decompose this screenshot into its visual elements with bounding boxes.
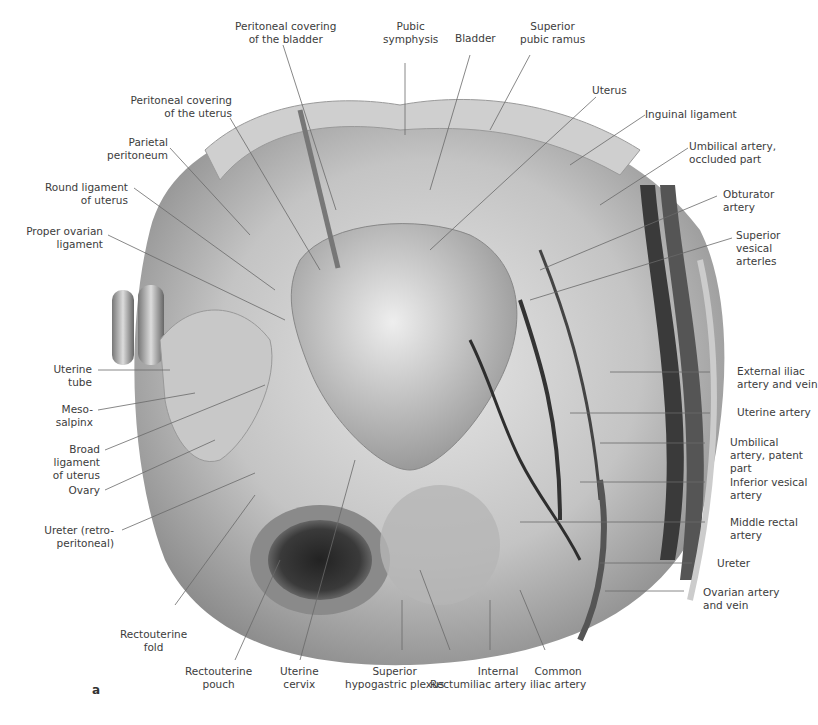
vessel-left-1 <box>112 290 134 365</box>
label-inferior-vesical-artery: Inferior vesical artery <box>730 476 807 502</box>
label-ureter: Ureter <box>717 557 750 570</box>
label-ureter-retroperitoneal: Ureter (retro- peritoneal) <box>44 524 114 550</box>
label-obturator-artery: Obturator artery <box>723 188 774 214</box>
label-parietal-peritoneum: Parietal peritoneum <box>107 136 168 162</box>
label-superior-pubic-ramus: Superior pubic ramus <box>520 20 585 46</box>
rectum-body <box>380 485 500 605</box>
label-uterine-artery: Uterine artery <box>737 406 811 419</box>
label-superior-vesical-arteries: Superior vesical arterles <box>736 229 780 268</box>
label-peritoneal-covering-bladder: Peritoneal covering of the bladder <box>235 20 336 46</box>
vessel-left-2 <box>138 285 164 365</box>
panel-letter: a <box>92 683 100 697</box>
label-broad-ligament: Broad ligament of uterus <box>53 443 100 482</box>
label-uterine-cervix: Uterine cervix <box>280 665 319 691</box>
label-common-iliac-artery: Common iliac artery <box>530 665 586 691</box>
label-bladder: Bladder <box>455 32 496 45</box>
label-rectouterine-fold: Rectouterine fold <box>120 628 187 654</box>
label-pubic-symphysis: Pubic symphysis <box>383 20 438 46</box>
label-internal-iliac-artery: Internal iliac artery <box>470 665 526 691</box>
label-external-iliac: External iliac artery and vein <box>737 365 818 391</box>
label-ovary: Ovary <box>69 484 100 497</box>
label-round-ligament: Round ligament of uterus <box>45 181 128 207</box>
label-uterine-tube: Uterine tube <box>53 363 92 389</box>
label-peritoneal-covering-uterus: Peritoneal covering of the uterus <box>131 94 232 120</box>
label-inguinal-ligament: Inguinal ligament <box>645 108 737 121</box>
label-ovarian-artery-vein: Ovarian artery and vein <box>703 586 779 612</box>
label-umbilical-artery-occluded: Umbilical artery, occluded part <box>689 140 776 166</box>
label-proper-ovarian-ligament: Proper ovarian ligament <box>26 225 103 251</box>
label-uterus: Uterus <box>592 84 627 97</box>
label-umbilical-artery-patent: Umbilical artery, patent part <box>730 436 803 475</box>
label-middle-rectal-artery: Middle rectal artery <box>730 516 798 542</box>
label-rectouterine-pouch: Rectouterine pouch <box>185 665 252 691</box>
label-rectum: Rectum <box>430 678 470 691</box>
label-mesosalpinx: Meso- salpinx <box>56 403 93 429</box>
